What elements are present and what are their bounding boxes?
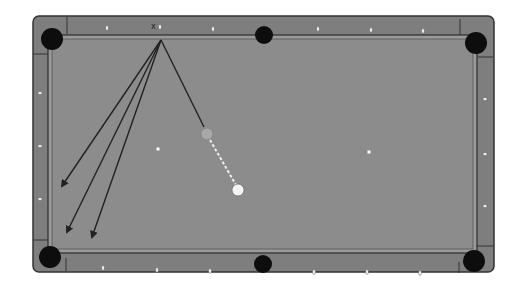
cue-ball [232,184,244,196]
bottom-left-pocket [39,246,61,268]
diamond-icon [422,29,425,34]
diamond-icon [313,270,316,275]
playing-surface [52,39,473,249]
diamond-icon [106,26,109,31]
diamond-icon [212,27,215,32]
head-spot [157,148,160,151]
diamond-icon [209,269,212,274]
diamond-icon [483,153,487,156]
bottom-middle-pocket [254,255,272,273]
diamond-icon [317,27,320,32]
object-ball [201,128,213,140]
diamond-icon [366,270,369,275]
diamond-icon [102,266,105,271]
foot-spot [368,151,371,154]
diamond-icon [159,25,162,30]
aim-point-label: x [151,22,156,31]
top-right-pocket [465,32,487,54]
table-cloth [48,35,477,253]
pool-table-diagram [0,0,521,299]
top-middle-pocket [255,26,273,44]
diamond-icon [483,98,487,101]
diamond-icon [38,92,42,95]
diamond-icon [419,271,422,276]
top-left-pocket [41,28,63,50]
diamond-icon [38,145,42,148]
diamond-icon [483,205,487,208]
bottom-right-pocket [463,250,485,272]
diamond-icon [156,268,159,273]
diamond-icon [38,198,42,201]
diamond-icon [370,28,373,33]
